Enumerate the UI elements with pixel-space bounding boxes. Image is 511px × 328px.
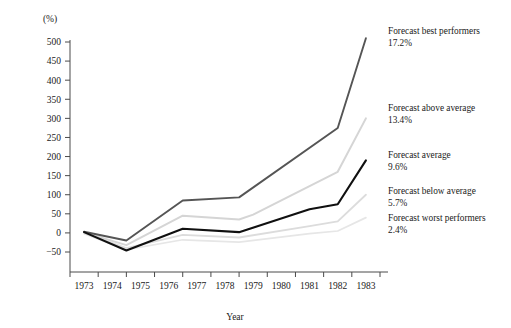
series-line — [84, 38, 366, 240]
y-tick-label: 450 — [47, 56, 62, 66]
legend-label: Forecast above average — [388, 103, 475, 115]
legend-label: Forecast average — [388, 150, 451, 162]
y-tick-label: 250 — [47, 133, 62, 143]
legend-value: 2.4% — [388, 225, 486, 237]
legend-value: 9.6% — [388, 162, 451, 174]
y-tick-label: 0 — [56, 228, 61, 238]
legend-entry-worst-performers: Forecast worst performers 2.4% — [388, 213, 486, 236]
legend-label: Forecast below average — [388, 186, 476, 198]
x-axis-ticks: 1973197419751976197719781979198019811982… — [70, 272, 380, 291]
x-tick-label: 1977 — [187, 281, 206, 291]
y-axis-ticks: −50050100150200250300350400450500 — [46, 37, 70, 257]
legend-value: 5.7% — [388, 198, 476, 210]
x-tick-label: 1983 — [356, 281, 375, 291]
x-tick-label: 1981 — [300, 281, 319, 291]
y-tick-label: 300 — [47, 114, 62, 124]
legend-entry-average: Forecast average 9.6% — [388, 150, 451, 173]
x-tick-label: 1974 — [103, 281, 122, 291]
y-tick-label: 50 — [52, 209, 62, 219]
y-tick-label: −50 — [46, 247, 61, 257]
x-tick-label: 1976 — [159, 281, 178, 291]
x-tick-label: 1975 — [131, 281, 150, 291]
x-tick-label: 1980 — [272, 281, 291, 291]
x-tick-label: 1973 — [75, 281, 94, 291]
x-tick-label: 1978 — [216, 281, 235, 291]
y-tick-label: 350 — [47, 95, 62, 105]
x-axis-title: Year — [226, 312, 244, 322]
y-tick-label: 400 — [47, 76, 62, 86]
legend-value: 17.2% — [388, 38, 480, 50]
y-axis-unit-label: (%) — [43, 14, 57, 25]
y-tick-label: 100 — [47, 190, 62, 200]
legend-entry-best-performers: Forecast best performers 17.2% — [388, 26, 480, 49]
y-tick-label: 500 — [47, 37, 62, 47]
x-tick-label: 1979 — [244, 281, 263, 291]
data-series-group — [84, 38, 366, 250]
line-chart: (%) −50050100150200250300350400450500 19… — [0, 0, 511, 328]
legend-entry-above-average: Forecast above average 13.4% — [388, 103, 475, 126]
y-tick-label: 200 — [47, 152, 62, 162]
legend-value: 13.4% — [388, 115, 475, 127]
y-tick-label: 150 — [47, 171, 62, 181]
x-tick-label: 1982 — [328, 281, 347, 291]
legend-label: Forecast best performers — [388, 26, 480, 38]
legend-entry-below-average: Forecast below average 5.7% — [388, 186, 476, 209]
legend-label: Forecast worst performers — [388, 213, 486, 225]
